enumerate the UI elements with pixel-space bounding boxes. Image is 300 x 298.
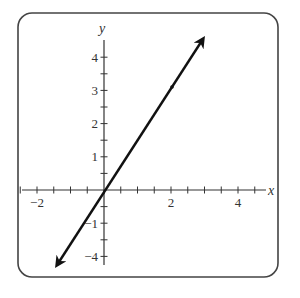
y-tick-labels: 4321−1−4 (84, 50, 98, 264)
y-tick-label: 1 (92, 149, 99, 164)
y-axis-label: y (97, 21, 106, 36)
y-tick-label: 4 (92, 50, 99, 65)
x-tick-label: −2 (30, 195, 44, 210)
x-tick-label: 2 (168, 195, 175, 210)
x-axis (20, 187, 266, 194)
x-axis-label: x (267, 183, 275, 198)
y-tick-label: −4 (84, 249, 98, 264)
y-axis (101, 40, 108, 265)
y-tick-label: 2 (92, 116, 99, 131)
y-tick-label: 3 (92, 83, 99, 98)
x-tick-labels: −224 (30, 195, 242, 210)
graph-frame (18, 13, 278, 277)
graph: −224 4321−1−4 x y (0, 0, 300, 298)
x-tick-label: 4 (235, 195, 242, 210)
marked-point (170, 85, 174, 89)
plotted-line (57, 39, 203, 265)
